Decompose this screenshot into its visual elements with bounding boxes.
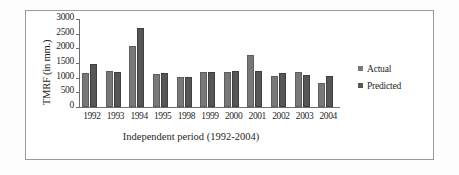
bar-group (175, 19, 199, 107)
bar-group (104, 19, 128, 107)
y-tick-label: 500 (61, 85, 74, 95)
x-tick-label: 2004 (314, 111, 342, 121)
chart-figure: TMRF (in mm.) 050010001500200025003000 1… (0, 0, 459, 175)
bar-group (80, 19, 104, 107)
y-tick-label: 3000 (56, 12, 74, 22)
bar-predicted (208, 72, 215, 107)
bar-actual (177, 77, 184, 107)
y-tick-label: 2500 (56, 27, 74, 37)
bar-predicted (303, 75, 310, 107)
legend-swatch-icon (358, 66, 363, 71)
bar-series-container (80, 19, 340, 107)
legend-label: Predicted (367, 81, 401, 91)
y-tick-label: 1500 (56, 56, 74, 66)
bar-group (222, 19, 246, 107)
bar-actual (153, 74, 160, 107)
bar-actual (106, 71, 113, 107)
legend-item-actual: Actual (358, 63, 430, 74)
bar-predicted (161, 73, 168, 107)
bar-predicted (185, 77, 192, 107)
bar-predicted (326, 76, 333, 107)
bar-actual (129, 46, 136, 107)
legend-label: Actual (367, 64, 391, 74)
y-tick-mark (76, 107, 80, 108)
x-axis-line (79, 107, 340, 108)
bar-actual (318, 83, 325, 107)
legend-item-predicted: Predicted (358, 80, 430, 91)
bar-predicted (90, 64, 97, 107)
bar-actual (200, 72, 207, 107)
chart-legend: ActualPredicted (358, 63, 430, 97)
bar-predicted (137, 28, 144, 107)
x-axis-ticks: 1992199319941995199819992000200120022003… (80, 111, 342, 125)
bar-actual (271, 76, 278, 107)
bar-group (127, 19, 151, 107)
bar-predicted (279, 73, 286, 107)
y-tick-label: 1000 (56, 71, 74, 81)
bar-group (316, 19, 340, 107)
bar-predicted (114, 72, 121, 107)
figure-frame: TMRF (in mm.) 050010001500200025003000 1… (25, 10, 434, 160)
y-tick-label: 2000 (56, 41, 74, 51)
bar-actual (224, 72, 231, 107)
bar-group (269, 19, 293, 107)
bar-group (151, 19, 175, 107)
bar-group (293, 19, 317, 107)
bar-actual (295, 72, 302, 107)
y-tick-label: 0 (70, 100, 74, 110)
bar-group (198, 19, 222, 107)
bar-actual (82, 73, 89, 107)
legend-swatch-icon (358, 83, 363, 88)
bar-predicted (232, 71, 239, 107)
y-axis-title: TMRF (in mm.) (41, 18, 52, 128)
bar-actual (247, 55, 254, 108)
bar-predicted (255, 71, 262, 107)
x-axis-title: Independent period (1992-2004) (60, 131, 322, 142)
bar-group (245, 19, 269, 107)
plot-area: 050010001500200025003000 (79, 19, 339, 107)
